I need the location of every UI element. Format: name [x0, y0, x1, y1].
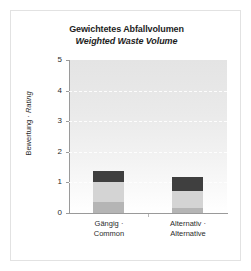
bar-1 — [93, 60, 124, 213]
x-axis-label-2: Alternativ ·Alternative — [142, 219, 234, 239]
chart-title: Gewichtetes Abfallvolumen Weighted Waste… — [11, 23, 241, 47]
y-tick-label: 3 — [44, 116, 62, 125]
y-axis-line — [69, 60, 70, 214]
bar-segment-segment-bottom — [93, 202, 124, 213]
y-axis-title-text: Bewertung · Rating — [24, 91, 33, 155]
y-tick-mark — [66, 213, 69, 214]
y-tick-mark — [66, 182, 69, 183]
bar-segment-segment-middle — [172, 191, 203, 209]
bar-segment-segment-top — [93, 171, 124, 182]
y-tick-label: 4 — [44, 86, 62, 95]
chart-card: Gewichtetes Abfallvolumen Weighted Waste… — [10, 10, 241, 261]
y-tick-mark — [66, 152, 69, 153]
x-axis-label-line: Alternativ · — [142, 219, 234, 229]
y-tick-label: 2 — [44, 147, 62, 156]
y-tick-label: 1 — [44, 177, 62, 186]
bar-segment-segment-middle — [93, 182, 124, 201]
chart-title-secondary: Weighted Waste Volume — [11, 35, 241, 47]
x-tick-mark — [148, 214, 149, 217]
y-tick-label: 0 — [44, 208, 62, 217]
y-tick-mark — [66, 121, 69, 122]
x-axis-label-line: Alternative — [142, 229, 234, 239]
y-tick-mark — [66, 60, 69, 61]
y-axis-title-italic: Rating — [24, 91, 33, 115]
bar-segment-segment-top — [172, 177, 203, 191]
y-tick-mark — [66, 91, 69, 92]
bar-2 — [172, 60, 203, 213]
y-tick-label: 5 — [44, 55, 62, 64]
bar-segment-segment-bottom — [172, 208, 203, 213]
y-axis-title: Bewertung · Rating — [24, 64, 33, 184]
chart-title-primary: Gewichtetes Abfallvolumen — [11, 23, 241, 35]
